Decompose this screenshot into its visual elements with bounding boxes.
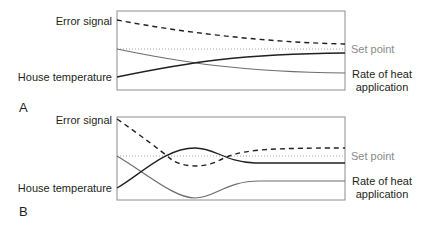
panel-a-heat-rate-curve <box>117 49 345 73</box>
panel-a-letter: A <box>19 100 28 115</box>
feedback-diagram: Error signal House temperature Set point… <box>0 0 422 236</box>
panel-a-set-point-label: Set point <box>351 43 394 55</box>
panel-b-heat-rate-curve <box>117 156 345 198</box>
panel-a-house-temperature-label: House temperature <box>18 71 112 83</box>
panel-b-house-temperature-curve <box>117 148 345 188</box>
panel-b-letter: B <box>19 204 28 219</box>
panel-a-rate-label-line2: application <box>356 81 409 93</box>
panel-a-rate-label-line1: Rate of heat <box>352 68 412 80</box>
panel-a: Error signal House temperature Set point… <box>18 11 412 115</box>
panel-a-frame <box>117 11 345 90</box>
panel-b-set-point-label: Set point <box>351 150 394 162</box>
panel-b-rate-label-line1: Rate of heat <box>352 175 412 187</box>
panel-b-house-temperature-label: House temperature <box>18 182 112 194</box>
panel-a-error-signal-curve <box>117 20 345 44</box>
panel-b-rate-label-line2: application <box>356 188 409 200</box>
panel-a-error-signal-label: Error signal <box>56 15 112 27</box>
panel-a-house-temperature-curve <box>117 53 345 77</box>
panel-b-error-signal-label: Error signal <box>56 114 112 126</box>
panel-b: Error signal House temperature Set point… <box>18 114 412 219</box>
